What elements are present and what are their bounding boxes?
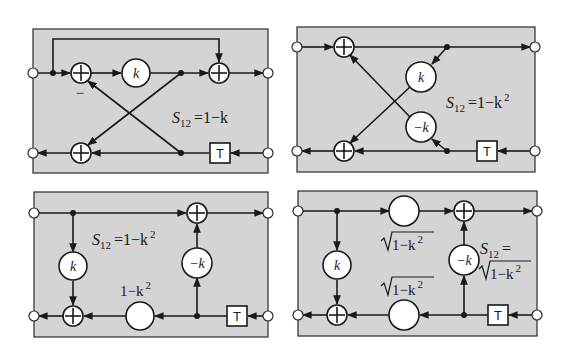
panel-3: k −k 1−k2 T S12=1−k2 <box>29 192 273 337</box>
port-2-in <box>530 146 540 156</box>
adder-icon <box>187 203 207 223</box>
port-1-in <box>293 206 303 216</box>
gain-sqrt-bottom <box>389 300 419 330</box>
port-1-out <box>29 311 39 321</box>
gain-minus-k-label: −k <box>413 120 429 135</box>
branch-node <box>461 312 467 318</box>
port-1-out <box>28 148 38 158</box>
panel-1: k − T S12=1−k <box>28 29 273 173</box>
delay-label: T <box>483 144 491 159</box>
delay-label: T <box>233 309 241 324</box>
minus-sign: − <box>76 85 84 101</box>
port-1-out <box>292 146 302 156</box>
port-2-out <box>263 68 273 78</box>
gain-sqrt-top <box>389 196 419 226</box>
delay-label: T <box>494 308 502 323</box>
branch-node <box>70 210 76 216</box>
adder-icon <box>334 141 354 161</box>
adder-icon <box>209 63 229 83</box>
panel-4: k −k 1−k2 1−k2 T S12= 1−k2 <box>293 191 542 336</box>
port-1-in <box>28 68 38 78</box>
signal-flow-figure: k − T S12=1−k <box>0 0 577 359</box>
port-2-out <box>532 206 542 216</box>
branch-node <box>444 44 450 50</box>
port-1-in <box>29 208 39 218</box>
panel-1-background <box>33 29 268 173</box>
port-2-in <box>532 310 542 320</box>
gain-k-label: k <box>418 70 425 85</box>
adder-icon <box>71 143 91 163</box>
port-2-out <box>263 208 273 218</box>
gain-k-label: k <box>133 66 140 81</box>
port-2-in <box>263 311 273 321</box>
gain-minus-k-label: −k <box>189 256 205 271</box>
branch-node <box>194 313 200 319</box>
port-2-out <box>530 42 540 52</box>
adder-icon <box>63 306 83 326</box>
branch-node <box>50 70 56 76</box>
adder-icon <box>71 63 91 83</box>
adder-icon <box>327 305 347 325</box>
branch-node <box>178 70 184 76</box>
branch-node <box>444 148 450 154</box>
gain-minus-k-label: −k <box>456 253 472 268</box>
gain-1-minus-k2 <box>126 302 154 330</box>
branch-node <box>178 150 184 156</box>
panel-2: k −k T S12=1−k2 <box>292 27 540 172</box>
port-1-in <box>292 42 302 52</box>
gain-k-label: k <box>70 259 77 274</box>
delay-label: T <box>216 146 224 161</box>
branch-node <box>334 208 340 214</box>
adder-icon <box>334 37 354 57</box>
port-2-in <box>263 148 273 158</box>
adder-icon <box>454 201 474 221</box>
gain-k-label: k <box>334 258 341 273</box>
port-1-out <box>293 310 303 320</box>
